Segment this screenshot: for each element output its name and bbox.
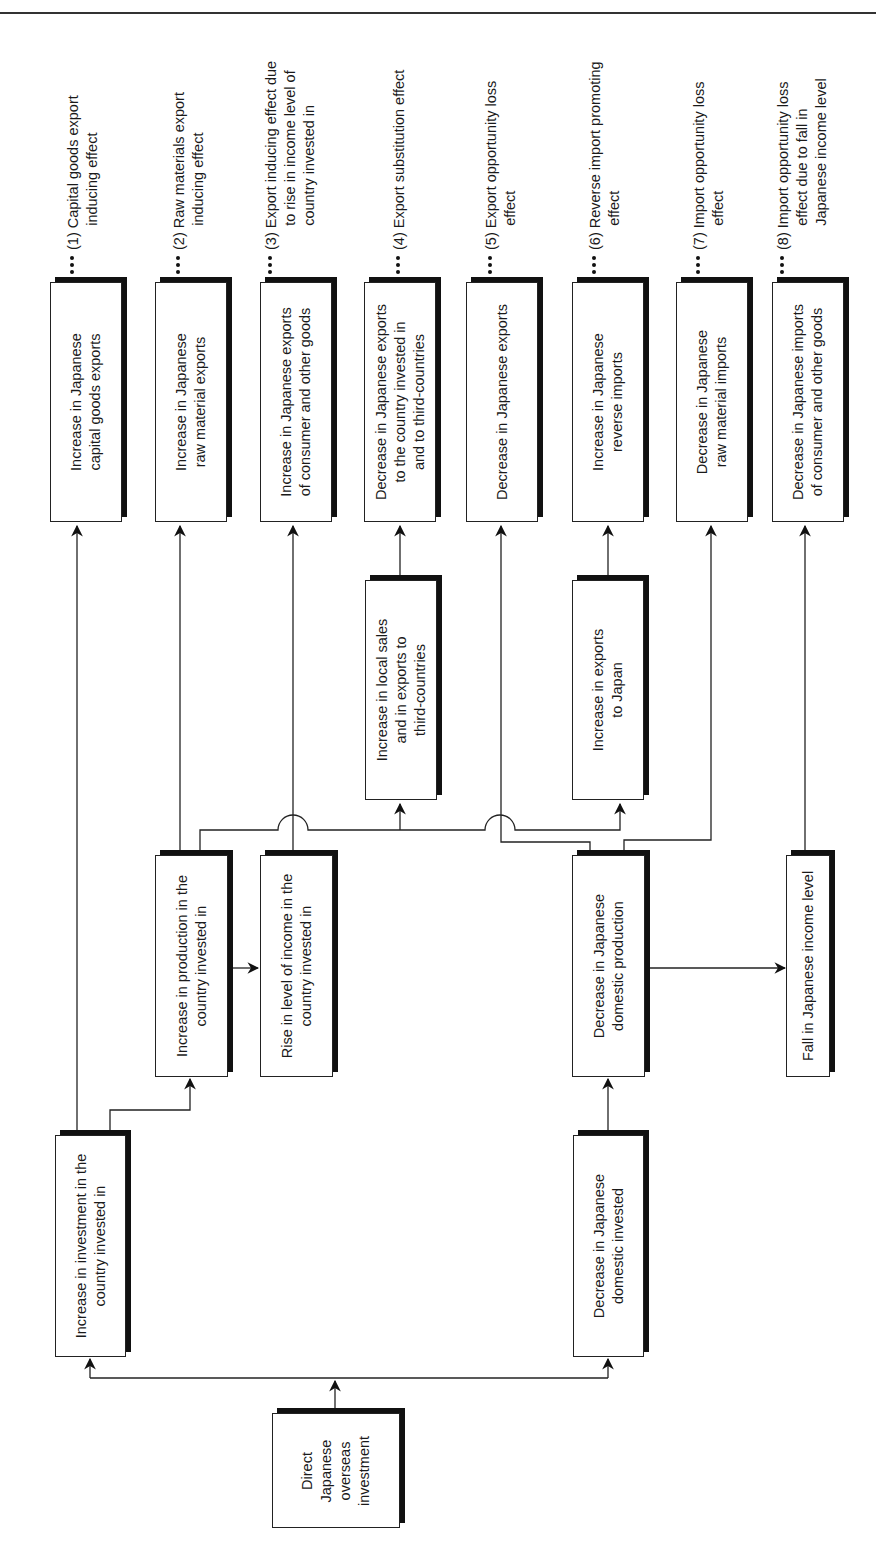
effect-label-1: (1) Capital goods export inducing effect xyxy=(64,95,102,250)
ellipsis-icon xyxy=(396,256,402,277)
outcome-label: Increase in Japanese capital goods expor… xyxy=(67,333,105,471)
outcome-label: Increase in Japanese raw material export… xyxy=(172,333,210,471)
japan-income-down-label: Fall in Japanese income level xyxy=(799,871,818,1061)
ellipsis-icon xyxy=(780,256,786,277)
effect-label-6: (6) Reverse import promoting effect xyxy=(586,61,624,250)
exports-to-japan-label: Increase in exports to Japan xyxy=(589,629,627,752)
effect-label-5: (5) Export opportunity loss effect xyxy=(482,81,520,250)
outcome-box-7: Decrease in Japanese raw material import… xyxy=(676,282,748,522)
outcome-box-4: Decrease in Japanese exports to the coun… xyxy=(364,282,436,522)
japan-income-down-box: Fall in Japanese income level xyxy=(786,855,830,1077)
outcome-label: Decrease in Japanese raw material import… xyxy=(693,330,731,474)
domestic-production-down-box: Decrease in Japanese domestic production xyxy=(572,855,645,1077)
root-label: Direct Japanese overseas investment xyxy=(298,1435,374,1505)
domestic-invest-down-box: Decrease in Japanese domestic invested xyxy=(573,1135,644,1357)
effect-label-4: (4) Export substitution effect xyxy=(390,70,409,250)
outcome-box-6: Increase in Japanese reverse imports xyxy=(572,282,644,522)
effect-label-2: (2) Raw materials export inducing effect xyxy=(170,92,208,250)
ellipsis-icon xyxy=(488,256,494,277)
outcome-box-2: Increase in Japanese raw material export… xyxy=(155,282,227,522)
ellipsis-icon xyxy=(696,256,702,277)
ellipsis-icon xyxy=(70,256,76,277)
effect-label-7: (7) Import opportunity loss effect xyxy=(690,82,728,250)
income-up-label: Rise in level of income in the country i… xyxy=(278,874,316,1059)
outcome-label: Decrease in Japanese imports of consumer… xyxy=(789,304,827,500)
outcome-label: Decrease in Japanese exports xyxy=(493,304,512,500)
ellipsis-icon xyxy=(176,256,182,277)
production-up-box: Increase in production in the country in… xyxy=(155,855,228,1077)
effect-label-8: (8) Import opportunity loss effect due t… xyxy=(774,78,831,250)
income-up-box: Rise in level of income in the country i… xyxy=(260,855,333,1077)
outcome-label: Increase in Japanese exports of consumer… xyxy=(277,307,315,496)
outcome-box-5: Decrease in Japanese exports xyxy=(466,282,538,522)
effect-label-3: (3) Export inducing effect due to rise i… xyxy=(262,61,319,250)
production-up-label: Increase in production in the country in… xyxy=(173,875,211,1057)
investment-up-box: Increase in investment in the country in… xyxy=(55,1135,126,1357)
root-box: Direct Japanese overseas investment xyxy=(272,1413,400,1528)
ellipsis-icon xyxy=(268,256,274,277)
local-sales-box: Increase in local sales and in exports t… xyxy=(365,580,437,800)
ellipsis-icon xyxy=(592,256,598,277)
investment-up-label: Increase in investment in the country in… xyxy=(72,1154,110,1339)
outcome-box-1: Increase in Japanese capital goods expor… xyxy=(50,282,122,522)
outcome-box-8: Decrease in Japanese imports of consumer… xyxy=(772,282,844,522)
domestic-production-down-label: Decrease in Japanese domestic production xyxy=(590,894,628,1038)
outcome-label: Decrease in Japanese exports to the coun… xyxy=(372,304,429,500)
outcome-box-3: Increase in Japanese exports of consumer… xyxy=(260,282,332,522)
local-sales-label: Increase in local sales and in exports t… xyxy=(373,619,430,762)
domestic-invest-down-label: Decrease in Japanese domestic invested xyxy=(590,1174,628,1318)
outcome-label: Increase in Japanese reverse imports xyxy=(589,333,627,471)
connector-lines xyxy=(0,0,876,1545)
exports-to-japan-box: Increase in exports to Japan xyxy=(572,580,644,800)
